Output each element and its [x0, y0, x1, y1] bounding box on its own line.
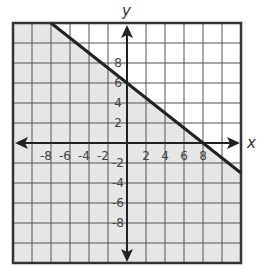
x-tick-label: 8: [199, 149, 207, 163]
x-tick-label: 6: [180, 149, 188, 163]
x-axis-label: x: [246, 134, 256, 152]
y-tick-label: 8: [114, 56, 122, 70]
y-tick-label: 4: [114, 96, 122, 110]
y-tick-label: -6: [112, 196, 124, 210]
x-tick-label: 4: [161, 149, 169, 163]
y-axis-label: y: [121, 2, 132, 20]
x-tick-label: -4: [78, 149, 90, 163]
y-tick-label: 2: [114, 116, 122, 130]
y-tick-label: 6: [114, 76, 122, 90]
inequality-graph: y x -8 -6 -4 -2 2 4 6 8 8 6 4 2 -2 -4 -6…: [0, 0, 266, 274]
x-tick-label: 2: [142, 149, 150, 163]
y-tick-label: -4: [112, 176, 124, 190]
y-tick-label: -2: [112, 156, 124, 170]
y-tick-label: -8: [112, 216, 124, 230]
x-tick-label: -8: [40, 149, 52, 163]
x-tick-label: -2: [97, 149, 109, 163]
x-tick-label: -6: [59, 149, 71, 163]
